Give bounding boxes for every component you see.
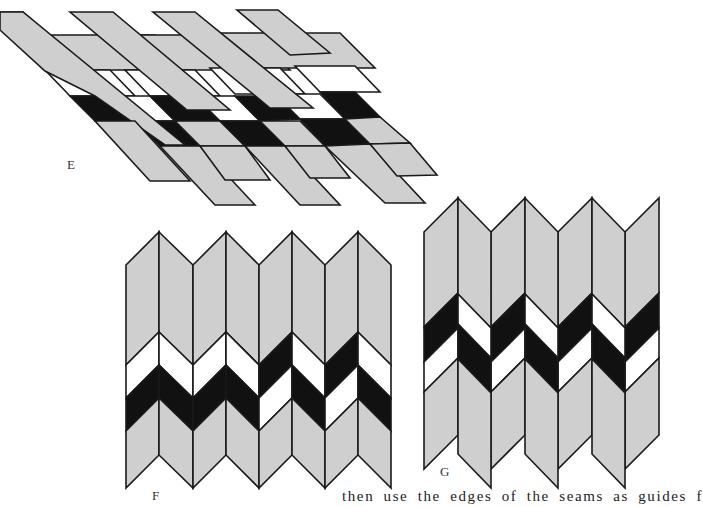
figure-e-label: E — [67, 157, 75, 173]
body-text-caption: then use the edges of the seams as guide… — [342, 488, 703, 505]
figure-e — [0, 10, 437, 205]
figure-g-label: G — [440, 464, 449, 480]
figure-f — [126, 232, 391, 488]
figure-f-label: F — [152, 488, 159, 504]
figure-g-strip-down — [458, 198, 625, 488]
figure-g — [424, 198, 659, 488]
